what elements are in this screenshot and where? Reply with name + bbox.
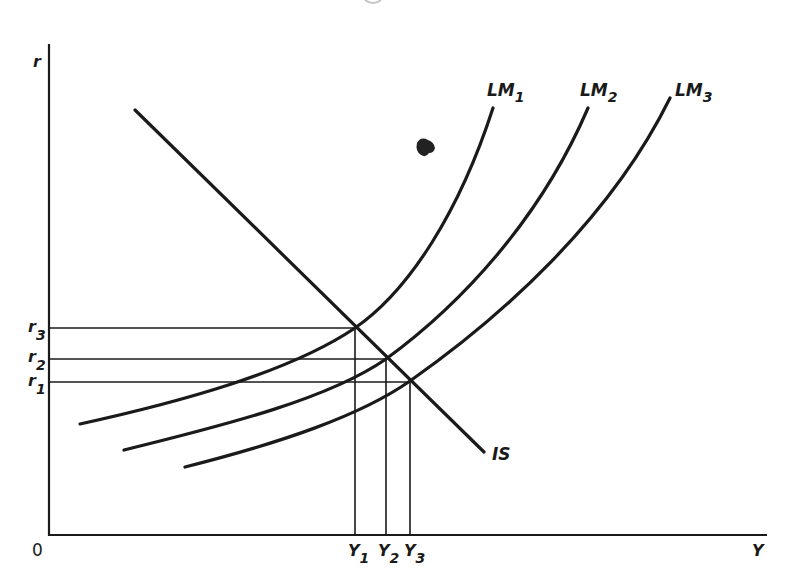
y2-label: Y2	[378, 541, 399, 566]
x-axis-label: Y	[752, 541, 765, 560]
is-label: IS	[492, 444, 511, 464]
is-lm-diagram: r Y 0 LM1 LM2 LM3 IS r3 r2 r1 Y1 Y2 Y3	[0, 0, 796, 587]
y-axis-label: r	[33, 52, 42, 71]
y1-label: Y1	[348, 541, 369, 566]
lm1-curve	[80, 108, 493, 424]
lm2-curve	[124, 108, 588, 450]
r1-label: r1	[28, 371, 46, 397]
origin-label: 0	[32, 540, 43, 560]
y3-label: Y3	[404, 541, 425, 566]
cropped-caption-fragment	[365, 0, 381, 3]
lm1-label: LM1	[487, 80, 525, 105]
lm2-label: LM2	[580, 80, 618, 105]
r2-label: r2	[28, 347, 46, 373]
lm3-label: LM3	[675, 80, 713, 105]
is-curve	[135, 110, 484, 452]
r3-label: r3	[28, 317, 46, 343]
ink-blot-artifact	[417, 139, 436, 157]
